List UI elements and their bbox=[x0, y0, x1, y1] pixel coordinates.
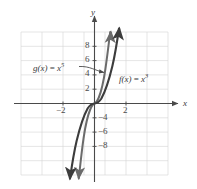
g-function-exponent: 5 bbox=[61, 61, 64, 68]
f-function-label: f(x) = x3 bbox=[119, 73, 148, 84]
x-tick-label-neg2: −2 bbox=[56, 106, 66, 115]
y-tick-label-8: 8 bbox=[85, 41, 90, 50]
y-axis-label: y bbox=[91, 8, 95, 17]
g-function-arg: (x) bbox=[38, 63, 48, 73]
f-function-exponent: 3 bbox=[145, 72, 148, 79]
curve-g-arrow-down bbox=[79, 170, 80, 178]
y-tick-label-neg6: −6 bbox=[98, 127, 108, 136]
y-tick-label-6: 6 bbox=[85, 55, 90, 64]
curve-g-arrow-up bbox=[110, 32, 111, 40]
y-tick-label-4: 4 bbox=[85, 69, 90, 78]
x-axis-label: x bbox=[183, 99, 187, 108]
y-tick-label-2: 2 bbox=[85, 84, 90, 93]
curve-f-arrow-down bbox=[70, 170, 71, 179]
graph-figure: y x 8 6 4 2 −4 −6 −8 −2 2 g(x) = x5 f(x)… bbox=[0, 0, 197, 189]
x-tick-label-pos2: 2 bbox=[123, 106, 128, 115]
g-function-equals: = bbox=[48, 63, 58, 73]
g-function-label: g(x) = x5 bbox=[33, 62, 64, 73]
f-function-equals: = bbox=[132, 74, 142, 84]
y-tick-label-neg4: −4 bbox=[98, 113, 108, 122]
coordinate-plane bbox=[0, 0, 197, 189]
g-label-leader-line bbox=[79, 66, 104, 72]
f-function-arg: (x) bbox=[122, 74, 132, 84]
curve-f-arrow-up bbox=[118, 29, 119, 38]
y-tick-label-neg8: −8 bbox=[98, 141, 108, 150]
